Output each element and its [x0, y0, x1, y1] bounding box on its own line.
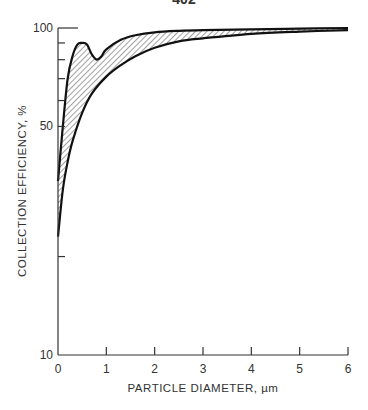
x-tick-label: 5: [296, 362, 303, 376]
y-tick-label: 100: [33, 21, 53, 35]
y-axis-label: COLLECTION EFFICIENCY, %: [16, 105, 28, 277]
y-tick-label: 10: [40, 348, 54, 362]
efficiency-band: [58, 28, 348, 237]
x-tick-label: 3: [200, 362, 207, 376]
x-tick-label: 0: [55, 362, 62, 376]
y-tick-label: 50: [40, 119, 54, 133]
x-tick-label: 6: [345, 362, 352, 376]
x-axis-label: PARTICLE DIAMETER, µm: [128, 382, 279, 394]
x-tick-label: 1: [103, 362, 110, 376]
hatched-region: [58, 28, 348, 237]
x-tick-label: 4: [248, 362, 255, 376]
upper-curve: [58, 28, 348, 181]
x-axis-ticks: 0123456: [55, 347, 352, 376]
collection-efficiency-chart: 0123456 1050100 PARTICLE DIAMETER, µm CO…: [0, 0, 368, 410]
x-tick-label: 2: [151, 362, 158, 376]
